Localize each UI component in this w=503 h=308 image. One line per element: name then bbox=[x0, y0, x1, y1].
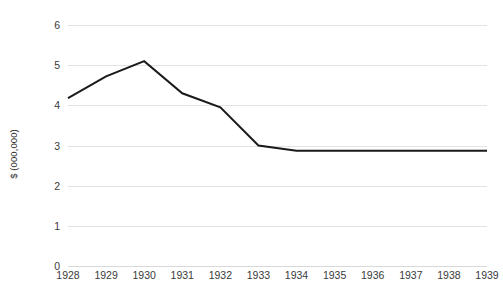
x-tick-label: 1928 bbox=[48, 269, 88, 281]
x-tick-label: 1934 bbox=[277, 269, 317, 281]
x-tick-label: 1937 bbox=[391, 269, 431, 281]
x-tick-label: 1939 bbox=[467, 269, 503, 281]
y-tick-label: 1 bbox=[20, 220, 60, 232]
x-tick-label: 1933 bbox=[238, 269, 278, 281]
x-tick-label: 1931 bbox=[162, 269, 202, 281]
x-tick-label: 1938 bbox=[429, 269, 469, 281]
x-tick-label: 1932 bbox=[200, 269, 240, 281]
y-tick-label: 6 bbox=[20, 19, 60, 31]
y-tick-label: 2 bbox=[20, 180, 60, 192]
x-tick-label: 1930 bbox=[124, 269, 164, 281]
x-tick-label: 1929 bbox=[86, 269, 126, 281]
y-tick-label: 3 bbox=[20, 140, 60, 152]
y-tick-label: 4 bbox=[20, 99, 60, 111]
x-tick-label: 1935 bbox=[315, 269, 355, 281]
gridline bbox=[68, 266, 487, 267]
data-line-svg bbox=[68, 25, 487, 266]
plot-area: 0123456 19281929193019311932193319341935… bbox=[68, 25, 487, 266]
x-tick-label: 1936 bbox=[353, 269, 393, 281]
y-tick-label: 5 bbox=[20, 59, 60, 71]
data-series-line bbox=[68, 61, 487, 151]
